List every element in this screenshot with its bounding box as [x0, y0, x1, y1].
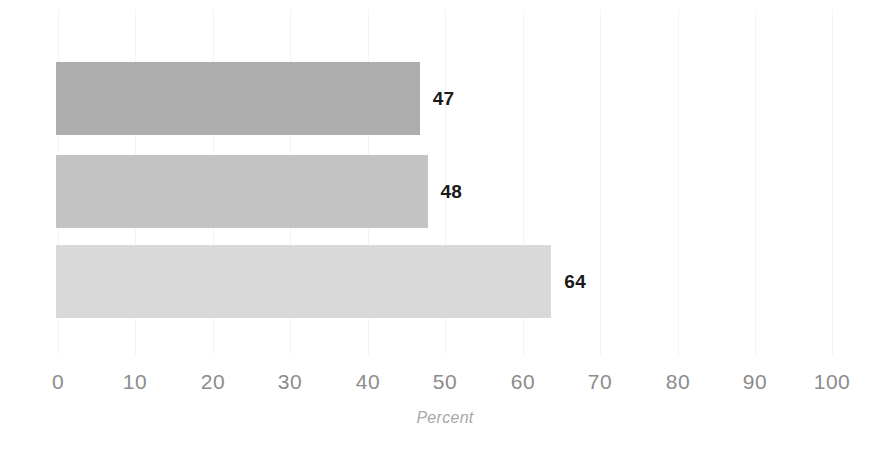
gridline-80 [678, 10, 679, 355]
bar-series-2 [56, 155, 428, 228]
x-axis-title-text: Percent [416, 409, 473, 427]
bar-series-3 [56, 245, 551, 318]
x-tick-80: 80 [666, 370, 690, 394]
plot-area: 47 48 64 [0, 0, 886, 360]
bar-series-1 [56, 62, 420, 135]
bar-chart: 47 48 64 0 10 20 30 40 50 60 70 80 90 10… [0, 0, 886, 460]
x-axis: 0 10 20 30 40 50 60 70 80 90 100 [0, 370, 886, 402]
gridline-90 [755, 10, 756, 355]
bar-value-label-3: 64 [564, 271, 586, 293]
x-tick-90: 90 [743, 370, 767, 394]
x-tick-60: 60 [511, 370, 535, 394]
x-tick-70: 70 [588, 370, 612, 394]
bar-value-label-2: 48 [441, 181, 463, 203]
gridline-100 [832, 10, 833, 355]
x-tick-0: 0 [52, 370, 64, 394]
x-tick-20: 20 [201, 370, 225, 394]
x-tick-30: 30 [278, 370, 302, 394]
x-tick-50: 50 [433, 370, 457, 394]
x-tick-10: 10 [123, 370, 147, 394]
x-axis-title: Percent [0, 409, 886, 427]
gridline-70 [600, 10, 601, 355]
x-tick-40: 40 [356, 370, 380, 394]
x-tick-100: 100 [814, 370, 851, 394]
bar-value-label-1: 47 [433, 88, 455, 110]
